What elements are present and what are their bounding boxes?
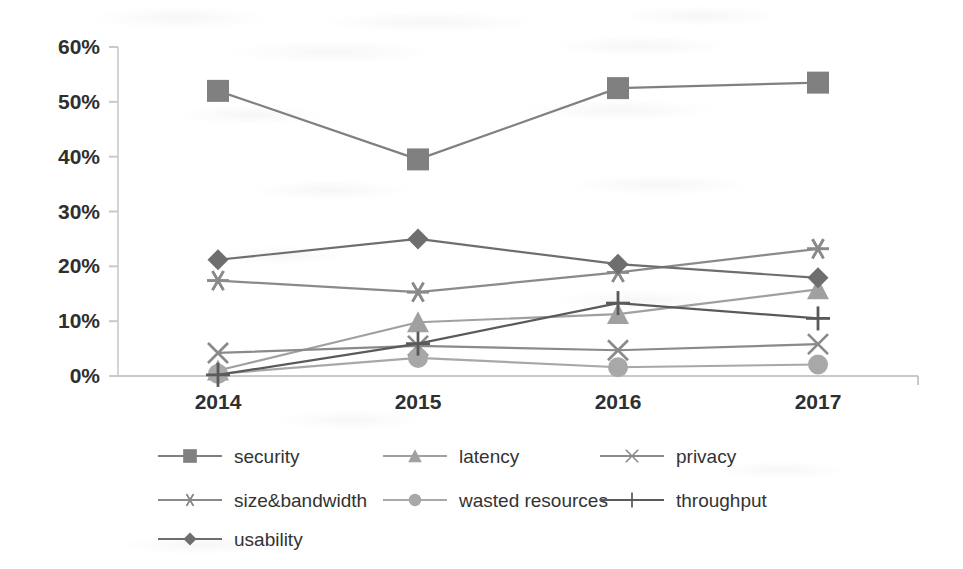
circle-marker [808, 354, 828, 374]
square-marker [407, 148, 429, 170]
y-axis-tick-label: 0% [70, 364, 101, 387]
data-point-marker [207, 80, 229, 102]
legend-label: wasted resources [458, 490, 608, 511]
data-point-marker [407, 148, 429, 170]
x-axis-tick-label: 2015 [395, 390, 442, 413]
legend-label: usability [234, 529, 303, 550]
y-axis-tick-label: 40% [58, 145, 100, 168]
y-axis-tick-label: 60% [58, 35, 100, 58]
circle-marker [608, 357, 628, 377]
data-point-marker [608, 357, 628, 377]
legend-label: size&bandwidth [234, 490, 367, 511]
data-point-marker [409, 494, 421, 506]
x-axis-tick-label: 2016 [595, 390, 642, 413]
y-axis-tick-label: 30% [58, 200, 100, 223]
chart-container: 0%10%20%30%40%50%60% 2014201520162017 se… [0, 0, 963, 569]
x-axis-tick-label: 2017 [795, 390, 842, 413]
square-marker [207, 80, 229, 102]
line-chart: 0%10%20%30%40%50%60% 2014201520162017 se… [0, 0, 963, 569]
y-axis-tick-label: 10% [58, 309, 100, 332]
legend-label: latency [459, 446, 520, 467]
square-marker [807, 72, 829, 94]
circle-marker [409, 494, 421, 506]
data-point-marker [607, 77, 629, 99]
data-point-marker [807, 72, 829, 94]
square-marker [183, 449, 197, 463]
y-axis-tick-label: 20% [58, 254, 100, 277]
legend-label: privacy [676, 446, 737, 467]
legend-label: throughput [676, 490, 768, 511]
x-axis-tick-label: 2014 [195, 390, 242, 413]
data-point-marker [808, 354, 828, 374]
legend-label: security [234, 446, 300, 467]
y-axis-tick-label: 50% [58, 90, 100, 113]
data-point-marker [183, 449, 197, 463]
square-marker [607, 77, 629, 99]
